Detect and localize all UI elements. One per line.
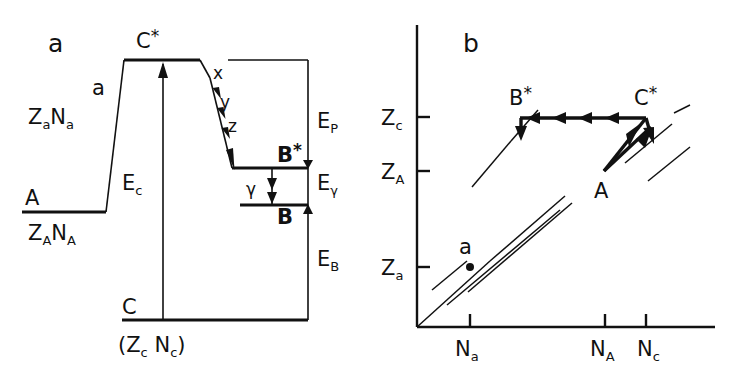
svg-text:EP: EP xyxy=(317,109,338,136)
label-entrance-particle-a: a xyxy=(92,76,105,100)
label-energy-EP: EP xyxy=(317,109,338,136)
svg-text:Ec: Ec xyxy=(122,171,142,198)
label-ground-coords: ZANA xyxy=(28,221,76,248)
label-energy-Egamma: Eγ xyxy=(317,171,338,198)
svg-text:(Zc Nc): (Zc Nc) xyxy=(118,333,186,360)
label-energy-EB: EB xyxy=(317,247,339,274)
svg-text:NA: NA xyxy=(590,337,615,364)
Ec-arrowhead xyxy=(158,62,168,78)
label-entrance-coords: ZaNa xyxy=(28,105,74,132)
svg-text:Eγ: Eγ xyxy=(317,171,338,198)
label-level-A: A xyxy=(25,186,40,210)
label-level-Cstar: C* xyxy=(136,26,159,53)
panel-b-label: b xyxy=(463,29,479,58)
x-axis-ticks xyxy=(470,314,646,327)
label-compound-coords: (Zc Nc) xyxy=(118,333,186,360)
y-tick-label-Za: Za xyxy=(381,256,403,283)
label-level-C: C xyxy=(122,295,137,319)
svg-text:C*: C* xyxy=(136,26,159,53)
svg-text:C*: C* xyxy=(634,83,657,110)
y-axis-ticks xyxy=(417,117,430,267)
point-Bstar-label: B* xyxy=(509,83,532,110)
figure-svg: a xyxy=(0,0,735,378)
svg-text:ZaNa: ZaNa xyxy=(28,105,74,132)
label-cascade-x: x xyxy=(213,63,223,83)
label-level-B: B xyxy=(277,205,293,229)
svg-text:ZA: ZA xyxy=(381,160,404,187)
label-energy-Ec: Ec xyxy=(122,171,142,198)
label-cascade-z: z xyxy=(228,116,237,136)
svg-text:EB: EB xyxy=(317,247,339,274)
panel-a: a xyxy=(22,26,339,360)
svg-text:B*: B* xyxy=(509,83,532,110)
label-gamma: γ xyxy=(246,179,256,199)
point-a-marker xyxy=(466,263,474,271)
x-tick-label-Na: Na xyxy=(455,337,479,364)
x-tick-label-Nc: Nc xyxy=(637,337,660,364)
y-tick-label-Zc: Zc xyxy=(381,106,403,133)
label-cascade-y: y xyxy=(220,92,230,112)
label-level-Bstar: B* xyxy=(277,140,302,167)
svg-text:B*: B* xyxy=(277,140,302,167)
stability-valley-guides xyxy=(417,105,690,327)
panel-b: b Zc ZA Za xyxy=(381,25,715,364)
svg-text:ZANA: ZANA xyxy=(28,221,76,248)
point-a-label: a xyxy=(459,235,472,259)
svg-text:Za: Za xyxy=(381,256,403,283)
svg-text:Na: Na xyxy=(455,337,479,364)
point-A-label: A xyxy=(594,179,609,203)
svg-text:Nc: Nc xyxy=(637,337,660,364)
figure-container: a xyxy=(0,0,735,378)
point-Cstar-label: C* xyxy=(634,83,657,110)
barrier-fall-line xyxy=(200,60,210,78)
svg-text:Zc: Zc xyxy=(381,106,403,133)
y-tick-label-ZA: ZA xyxy=(381,160,404,187)
panel-a-label: a xyxy=(48,29,63,58)
x-tick-label-NA: NA xyxy=(590,337,615,364)
